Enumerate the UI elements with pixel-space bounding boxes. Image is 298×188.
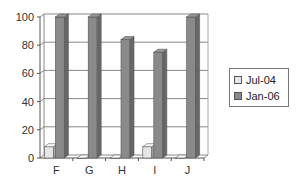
legend-item-jul-04: Jul-04	[234, 72, 284, 88]
svg-text:100: 100	[16, 11, 34, 23]
legend-swatch-jul-04	[234, 76, 242, 84]
svg-text:H: H	[118, 164, 126, 176]
svg-text:40: 40	[22, 96, 34, 108]
svg-text:80: 80	[22, 39, 34, 51]
svg-text:60: 60	[22, 67, 34, 79]
svg-text:0: 0	[28, 152, 34, 164]
svg-text:I: I	[153, 164, 156, 176]
svg-text:F: F	[53, 164, 60, 176]
legend-item-jan-06: Jan-06	[234, 88, 284, 104]
svg-text:J: J	[185, 164, 191, 176]
svg-text:20: 20	[22, 124, 34, 136]
legend-label: Jan-06	[246, 90, 280, 102]
svg-text:G: G	[85, 164, 94, 176]
legend-swatch-jan-06	[234, 92, 242, 100]
legend: Jul-04 Jan-06	[229, 68, 289, 107]
legend-label: Jul-04	[246, 74, 276, 86]
